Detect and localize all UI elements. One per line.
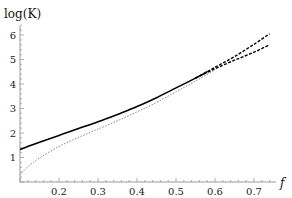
x-tick-label: 0.6 [207, 186, 223, 197]
y-tick-label: 6 [10, 30, 16, 41]
x-tick-label: 0.7 [246, 186, 262, 197]
x-tick-label: 0.4 [129, 186, 145, 197]
series-dotted [20, 70, 215, 175]
y-axis-label: log(K) [4, 7, 41, 21]
x-tick-label: 0.3 [90, 186, 106, 197]
y-tick-label: 5 [10, 54, 16, 65]
tick-labels: 0.20.30.40.50.60.7123456 [10, 30, 262, 198]
series-solid [20, 72, 207, 150]
x-axis-label: f [279, 176, 287, 190]
axes [20, 26, 276, 182]
line-chart: 0.20.30.40.50.60.7123456 log(K) f [0, 0, 292, 197]
data-series [20, 34, 270, 175]
y-tick-label: 1 [10, 152, 16, 163]
series-dashed-lower [196, 45, 270, 78]
y-tick-label: 4 [10, 79, 16, 90]
y-tick-label: 3 [10, 103, 16, 114]
y-tick-label: 2 [10, 128, 16, 139]
x-tick-label: 0.2 [51, 186, 67, 197]
x-tick-label: 0.5 [168, 186, 184, 197]
